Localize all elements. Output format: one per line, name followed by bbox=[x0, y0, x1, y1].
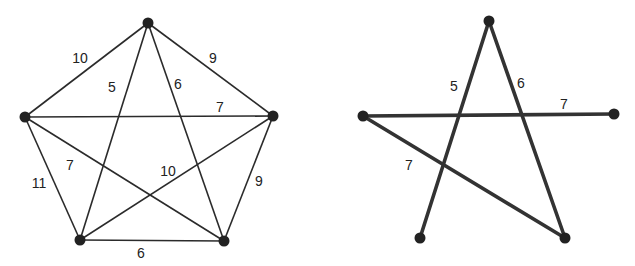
edge-weight-label: 9 bbox=[209, 50, 217, 66]
edge-C-D bbox=[80, 116, 273, 240]
vertex-B bbox=[20, 112, 31, 123]
spanning-tree-nodes bbox=[358, 16, 620, 244]
edge-A-E bbox=[489, 21, 565, 238]
vertex-E bbox=[560, 233, 571, 244]
edge-weight-label: 6 bbox=[174, 76, 182, 92]
edge-C-E bbox=[224, 116, 273, 241]
vertex-D bbox=[75, 235, 86, 246]
vertex-C bbox=[609, 109, 620, 120]
vertex-D bbox=[415, 233, 426, 244]
complete-graph-edges bbox=[25, 23, 273, 241]
edge-weight-label: 9 bbox=[255, 173, 263, 189]
vertex-E bbox=[219, 236, 230, 247]
edge-weight-label: 6 bbox=[517, 75, 525, 91]
edge-D-E bbox=[80, 240, 224, 241]
edge-B-C bbox=[25, 116, 273, 117]
edge-weight-label: 7 bbox=[560, 96, 568, 112]
edge-A-D bbox=[80, 23, 148, 240]
edge-weight-label: 7 bbox=[405, 157, 413, 173]
edge-A-B bbox=[25, 23, 148, 117]
edge-A-C bbox=[148, 23, 273, 116]
edge-weight-label: 10 bbox=[72, 50, 88, 66]
vertex-C bbox=[268, 111, 279, 122]
edge-weight-label: 7 bbox=[66, 157, 74, 173]
complete-graph-nodes bbox=[20, 18, 279, 247]
vertex-A bbox=[143, 18, 154, 29]
edge-B-E bbox=[25, 117, 224, 241]
edge-weight-label: 10 bbox=[160, 163, 176, 179]
edge-weight-label: 11 bbox=[32, 175, 47, 191]
edge-weight-label: 7 bbox=[216, 99, 224, 115]
edge-weight-label: 5 bbox=[108, 79, 116, 95]
vertex-B bbox=[358, 111, 369, 122]
edge-B-C bbox=[363, 114, 614, 116]
spanning-tree-weights: 5677 bbox=[405, 75, 568, 173]
edge-weight-label: 5 bbox=[450, 78, 458, 94]
edge-B-E bbox=[363, 116, 565, 238]
edge-weight-label: 6 bbox=[137, 245, 145, 261]
graph-canvas: 1095677101196 5677 bbox=[0, 0, 635, 266]
spanning-tree-edges bbox=[363, 21, 614, 238]
vertex-A bbox=[484, 16, 495, 27]
edge-A-D bbox=[420, 21, 489, 238]
